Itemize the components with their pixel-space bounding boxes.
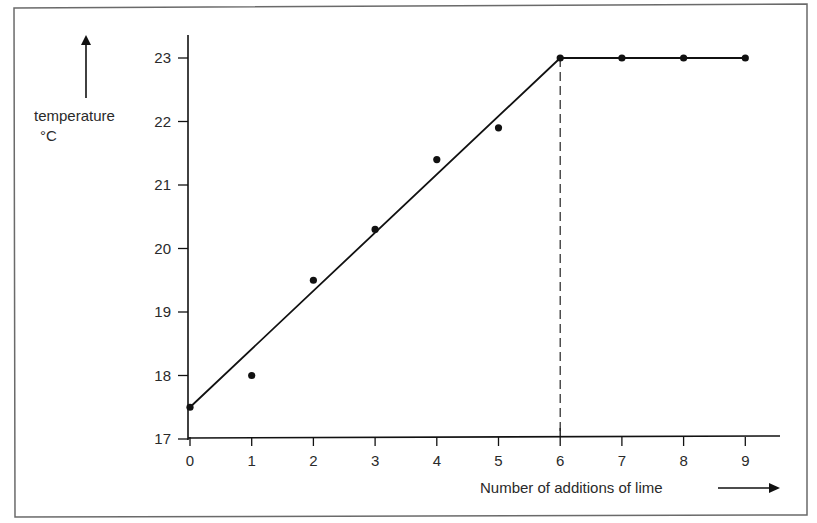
x-axis-label: Number of additions of lime: [480, 479, 663, 496]
x-tick-label: 5: [494, 452, 502, 469]
y-tick-label: 23: [154, 49, 171, 66]
y-tick-label: 18: [154, 367, 171, 384]
x-tick-label: 0: [186, 452, 194, 469]
y-axis-label: temperature: [34, 107, 115, 124]
chart-canvas: temperature °C 17181920212223 0123456789…: [0, 0, 817, 523]
x-axis-arrow-icon: [718, 483, 780, 493]
x-tick-label: 7: [618, 452, 626, 469]
fit-line-path: [190, 58, 745, 407]
x-axis-ticks: 0123456789: [186, 428, 750, 469]
data-point: [742, 54, 749, 61]
chart-frame: [14, 4, 807, 517]
x-tick-label: 9: [741, 452, 749, 469]
x-tick-label: 4: [433, 452, 441, 469]
x-tick-label: 2: [309, 452, 317, 469]
data-point: [618, 54, 625, 61]
y-tick-label: 22: [154, 113, 171, 130]
best-fit-line: [190, 58, 745, 407]
y-tick-label: 21: [154, 176, 171, 193]
data-points: [186, 54, 749, 410]
data-point: [557, 54, 564, 61]
x-tick-label: 8: [679, 452, 687, 469]
x-tick-label: 6: [556, 452, 564, 469]
y-tick-label: 20: [154, 240, 171, 257]
x-tick-label: 1: [248, 452, 256, 469]
data-point: [248, 372, 255, 379]
axes: [188, 35, 780, 440]
y-tick-label: 17: [154, 430, 171, 447]
data-point: [310, 277, 317, 284]
data-point: [433, 156, 440, 163]
data-point: [372, 226, 379, 233]
y-axis-unit: °C: [40, 127, 57, 144]
y-tick-label: 19: [154, 303, 171, 320]
x-axis-line: [188, 436, 780, 438]
data-point: [680, 54, 687, 61]
data-point: [186, 404, 193, 411]
y-axis-arrow-icon: [81, 35, 91, 98]
data-point: [495, 124, 502, 131]
x-tick-label: 3: [371, 452, 379, 469]
y-axis-ticks: 17181920212223: [154, 49, 188, 447]
